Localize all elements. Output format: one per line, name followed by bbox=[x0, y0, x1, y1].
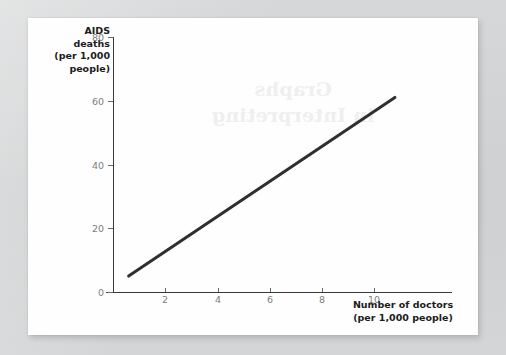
figure-card: Graphs in Interpreting AIDS deaths (per … bbox=[28, 18, 478, 335]
chart-plot-area: AIDS deaths (per 1,000 people) 0 20 40 6… bbox=[28, 18, 478, 335]
x-axis-title: Number of doctors (per 1,000 people) bbox=[328, 299, 478, 324]
series-line-aids-vs-doctors bbox=[28, 18, 478, 335]
figure-card-inner: Graphs in Interpreting AIDS deaths (per … bbox=[28, 18, 478, 335]
